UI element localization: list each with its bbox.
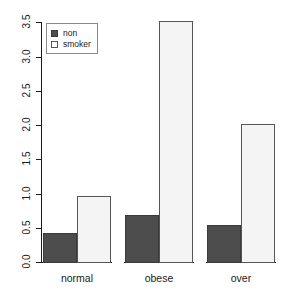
legend-label-non: non: [63, 29, 77, 38]
y-tick-mark: [36, 125, 41, 126]
y-tick-mark: [36, 57, 41, 58]
bar-obese-smoker: [159, 21, 193, 263]
plot-area: 0.0 0.5 1.0 1.5 2.0 2.5 3.0 3.5 normal o…: [0, 0, 299, 298]
y-tick-label: 1.0: [0, 188, 34, 199]
legend-filled-square-icon: [51, 30, 58, 37]
legend-open-square-icon: [51, 41, 58, 48]
y-tick-mark: [36, 194, 41, 195]
bar-over-smoker: [241, 124, 275, 263]
y-tick-mark: [36, 228, 41, 229]
legend-entry-smoker: smoker: [51, 39, 91, 49]
x-axis-label-normal: normal: [42, 272, 112, 284]
y-tick-label: 2.5: [0, 85, 34, 96]
bar-chart-figure: 0.0 0.5 1.0 1.5 2.0 2.5 3.0 3.5 normal o…: [0, 0, 299, 298]
bar-over-non: [207, 225, 241, 263]
legend-entry-non: non: [51, 28, 91, 38]
x-axis-label-over: over: [206, 272, 276, 284]
legend-label-smoker: smoker: [63, 40, 91, 49]
y-tick-mark: [36, 22, 41, 23]
y-tick-label: 2.0: [0, 119, 34, 130]
y-tick-label: 0.5: [0, 222, 34, 233]
bar-normal-smoker: [77, 196, 111, 263]
y-tick-label: 3.0: [0, 51, 34, 62]
bar-normal-non: [43, 233, 77, 263]
legend: non smoker: [46, 23, 98, 54]
bar-obese-non: [125, 215, 159, 263]
x-axis-label-obese: obese: [124, 272, 194, 284]
y-tick-mark: [36, 159, 41, 160]
y-tick-mark: [36, 91, 41, 92]
y-tick-label: 1.5: [0, 153, 34, 164]
y-axis-line: [41, 22, 42, 263]
y-tick-label: 3.5: [0, 16, 34, 27]
y-tick-mark: [36, 262, 41, 263]
y-tick-label: 0.0: [0, 256, 34, 267]
